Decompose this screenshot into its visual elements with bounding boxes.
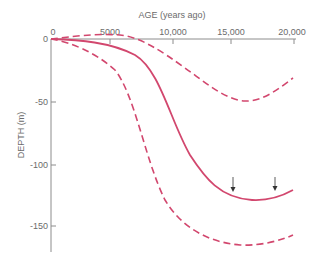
y-ticks: 0 -50 -100 -150 [30, 34, 56, 231]
x-tick-label: 0 [50, 27, 55, 37]
y-tick-label: 0 [43, 34, 48, 44]
y-axis-title: DEPTH (m) [16, 112, 26, 159]
x-tick-label: 15,000 [217, 27, 245, 37]
x-axis-title: AGE (years ago) [138, 10, 205, 20]
y-tick-label: -100 [30, 160, 48, 170]
lower-bound-curve [51, 39, 293, 245]
upper-bound-curve [51, 34, 293, 101]
arrow-icon [273, 177, 278, 191]
y-tick-label: -50 [35, 97, 48, 107]
x-tick-label: 20,000 [278, 27, 306, 37]
arrow-icon [231, 177, 236, 192]
y-tick-label: -150 [30, 221, 48, 231]
sea-level-chart: AGE (years ago) 0 5000 10,000 15,000 20,… [0, 0, 318, 262]
sea-level-curve [51, 39, 293, 200]
x-tick-label: 10,000 [159, 27, 187, 37]
